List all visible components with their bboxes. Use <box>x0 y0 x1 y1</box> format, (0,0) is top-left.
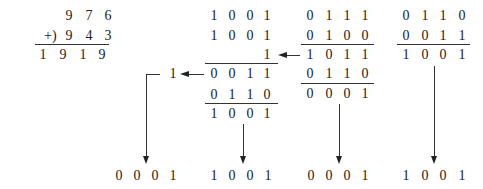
digit: 1 <box>455 48 469 62</box>
digit: 0 <box>303 29 317 43</box>
digit: 1 <box>260 67 274 81</box>
digit: 1 <box>418 9 432 23</box>
digit: 0 <box>303 67 317 81</box>
digit: 0 <box>243 107 257 121</box>
digit: 6 <box>101 9 115 23</box>
plus-operator: +) <box>44 29 57 43</box>
digit: 0 <box>243 29 257 43</box>
digit: 0 <box>225 29 239 43</box>
digit: 1 <box>436 29 450 43</box>
carry-down-line <box>146 74 147 157</box>
digit: 0 <box>455 9 469 23</box>
digit: 1 <box>207 9 221 23</box>
digit: 1 <box>358 48 372 62</box>
digit: 0 <box>322 169 336 183</box>
arrow-left-icon <box>180 71 189 77</box>
digit: 0 <box>322 48 336 62</box>
digit: 0 <box>130 169 144 183</box>
digit: 1 <box>225 88 239 102</box>
digit: 0 <box>225 107 239 121</box>
digit: 1 <box>455 169 469 183</box>
digit: 0 <box>303 9 317 23</box>
digit: 0 <box>303 87 317 101</box>
digit: 0 <box>322 87 336 101</box>
digit: 0 <box>340 29 354 43</box>
carry-in-digit: 1 <box>260 48 274 62</box>
digit: 1 <box>455 29 469 43</box>
digit: 0 <box>358 67 372 81</box>
digit: 1 <box>260 107 274 121</box>
arrow-down-icon <box>336 156 342 164</box>
carry-out-digit: 1 <box>166 67 180 81</box>
digit: 0 <box>225 169 239 183</box>
digit: 1 <box>340 48 354 62</box>
digit: 9 <box>62 9 76 23</box>
digit: 1 <box>340 9 354 23</box>
digit: 1 <box>358 169 372 183</box>
digit: 1 <box>207 107 221 121</box>
digit: 0 <box>436 169 450 183</box>
digit: 1 <box>261 169 275 183</box>
down-line <box>339 104 340 157</box>
digit: 9 <box>62 29 76 43</box>
digit: 1 <box>260 9 274 23</box>
digit: 1 <box>322 67 336 81</box>
digit: 0 <box>340 169 354 183</box>
digit: 1 <box>207 29 221 43</box>
digit: 1 <box>340 67 354 81</box>
digit: 0 <box>243 9 257 23</box>
digit: 1 <box>76 48 90 62</box>
digit: 0 <box>304 169 318 183</box>
digit: 1 <box>399 169 413 183</box>
sum-rule <box>205 63 278 64</box>
digit: 1 <box>303 48 317 62</box>
digit: 1 <box>36 48 50 62</box>
digit: 0 <box>399 29 413 43</box>
digit: 0 <box>207 67 221 81</box>
digit: 0 <box>418 48 432 62</box>
digit: 1 <box>166 169 180 183</box>
digit: 3 <box>101 29 115 43</box>
digit: 0 <box>340 87 354 101</box>
sum-rule <box>35 44 109 45</box>
arrow-down-icon <box>240 156 246 164</box>
carry-lead-line <box>146 74 160 75</box>
digit: 0 <box>225 9 239 23</box>
digit: 0 <box>260 88 274 102</box>
digit: 0 <box>436 48 450 62</box>
down-line <box>434 66 435 157</box>
digit: 0 <box>418 29 432 43</box>
digit: 0 <box>148 169 162 183</box>
sum-rule <box>301 83 374 84</box>
digit: 9 <box>56 48 70 62</box>
carry-out-arrow-line <box>188 74 204 75</box>
digit: 0 <box>358 29 372 43</box>
digit: 0 <box>207 88 221 102</box>
digit: 1 <box>243 67 257 81</box>
digit: 1 <box>358 87 372 101</box>
carry-arrow-line <box>286 55 300 56</box>
digit: 1 <box>243 88 257 102</box>
arrow-down-icon <box>431 156 437 164</box>
digit: 1 <box>322 9 336 23</box>
digit: 1 <box>399 48 413 62</box>
digit: 0 <box>399 9 413 23</box>
digit: 4 <box>82 29 96 43</box>
sum-rule <box>397 44 470 45</box>
arrow-left-icon <box>278 52 287 58</box>
digit: 1 <box>436 9 450 23</box>
digit: 1 <box>358 9 372 23</box>
digit: 1 <box>260 29 274 43</box>
digit: 0 <box>243 169 257 183</box>
sum-rule <box>205 103 278 104</box>
sum-rule <box>301 44 374 45</box>
digit: 0 <box>112 169 126 183</box>
down-line <box>243 124 244 157</box>
digit: 7 <box>82 9 96 23</box>
digit: 1 <box>207 169 221 183</box>
arrow-down-icon <box>143 156 149 164</box>
digit: 0 <box>418 169 432 183</box>
digit: 1 <box>322 29 336 43</box>
digit: 0 <box>225 67 239 81</box>
digit: 9 <box>95 48 109 62</box>
